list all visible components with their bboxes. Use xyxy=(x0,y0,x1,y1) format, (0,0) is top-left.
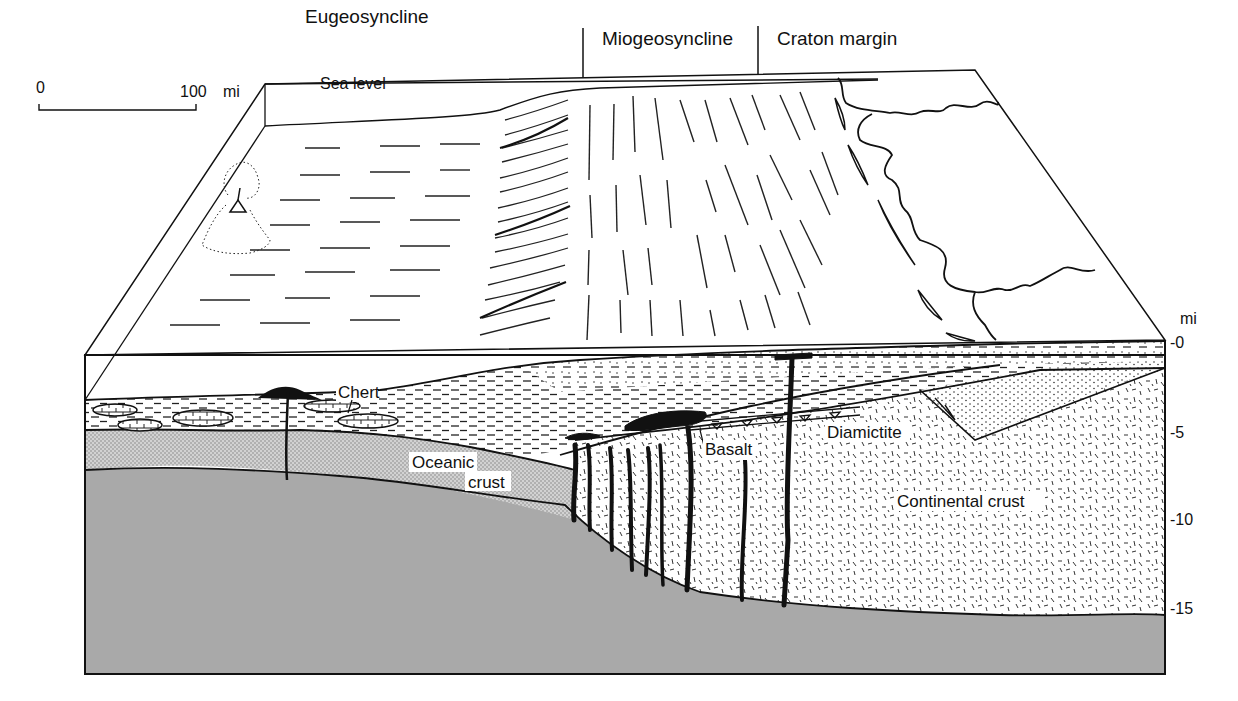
label-chert: Chert xyxy=(338,383,380,402)
label-continental-crust: Continental crust xyxy=(897,492,1025,511)
label-oceanic-crust-line1: Oceanic xyxy=(412,453,475,472)
zone-label-eugeosyncline: Eugeosyncline xyxy=(305,6,429,27)
geosyncline-block-diagram: Eugeosyncline Miogeosyncline Craton marg… xyxy=(0,0,1238,701)
depth-tick-0: -0 xyxy=(1170,334,1184,351)
label-oceanic-crust-line2: crust xyxy=(468,473,505,492)
scale-line xyxy=(39,104,196,110)
scale-unit: mi xyxy=(223,83,240,100)
scale-end: 100 xyxy=(180,83,207,100)
depth-axis-unit: mi xyxy=(1180,310,1197,327)
scale-bar: 0 100 mi xyxy=(36,79,240,110)
depth-tick-10: -10 xyxy=(1170,511,1193,528)
label-basalt: Basalt xyxy=(705,440,753,459)
label-diamictite: Diamictite xyxy=(827,423,902,442)
depth-axis: mi -0 -5 -10 -15 xyxy=(1170,310,1197,617)
depth-tick-5: -5 xyxy=(1170,424,1184,441)
sea-level-label: Sea level xyxy=(320,75,386,92)
scale-start: 0 xyxy=(36,79,45,96)
zone-label-miogeosyncline: Miogeosyncline xyxy=(602,28,733,49)
zone-headers: Eugeosyncline Miogeosyncline Craton marg… xyxy=(305,6,897,78)
depth-tick-15: -15 xyxy=(1170,600,1193,617)
zone-label-craton-margin: Craton margin xyxy=(777,28,897,49)
